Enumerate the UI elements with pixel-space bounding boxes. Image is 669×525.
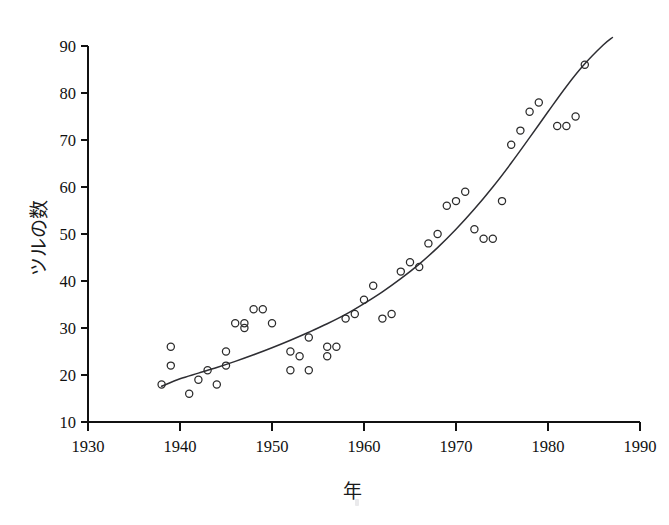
- data-point: [250, 306, 257, 313]
- x-tick-label: 1940: [164, 437, 197, 456]
- data-point: [572, 113, 579, 120]
- data-point: [351, 310, 358, 317]
- data-point: [268, 320, 275, 327]
- data-point: [167, 343, 174, 350]
- data-point: [480, 235, 487, 242]
- y-tick-label: 10: [60, 413, 77, 432]
- data-point: [232, 320, 239, 327]
- y-tick-label: 50: [60, 225, 77, 244]
- y-tick-label: 20: [60, 366, 77, 385]
- data-point: [489, 235, 496, 242]
- y-tick-label: 70: [60, 131, 77, 150]
- y-tick-label: 80: [60, 84, 77, 103]
- scatter-plot: 102030405060708090 193019401950196019701…: [0, 0, 669, 525]
- x-tick-label: 1970: [440, 437, 473, 456]
- data-point: [287, 367, 294, 374]
- data-point: [397, 268, 404, 275]
- data-point: [526, 108, 533, 115]
- x-tick-label: 1930: [72, 437, 105, 456]
- data-point: [287, 348, 294, 355]
- data-point: [333, 343, 340, 350]
- data-point: [167, 362, 174, 369]
- y-tick-label: 90: [60, 37, 77, 56]
- data-point: [222, 348, 229, 355]
- data-point: [296, 353, 303, 360]
- data-point: [360, 296, 367, 303]
- data-point: [342, 315, 349, 322]
- x-axis-title: 年: [343, 480, 362, 502]
- x-tick-label: 1990: [624, 437, 657, 456]
- data-point: [324, 343, 331, 350]
- data-point: [213, 381, 220, 388]
- x-tick-label: 1950: [256, 437, 289, 456]
- y-tick-label: 40: [60, 272, 77, 291]
- data-point: [241, 320, 248, 327]
- x-tick-label: 1960: [348, 437, 381, 456]
- data-point: [324, 353, 331, 360]
- data-point: [370, 282, 377, 289]
- data-points-group: [158, 61, 588, 397]
- data-point: [406, 259, 413, 266]
- data-point: [452, 198, 459, 205]
- fit-curve-group: [162, 38, 613, 387]
- x-tick-label: 1980: [532, 437, 565, 456]
- data-point: [517, 127, 524, 134]
- data-point: [379, 315, 386, 322]
- data-point: [535, 99, 542, 106]
- data-point: [425, 240, 432, 247]
- data-point: [305, 334, 312, 341]
- data-point: [498, 198, 505, 205]
- data-point: [259, 306, 266, 313]
- data-point: [186, 390, 193, 397]
- data-point: [508, 141, 515, 148]
- data-point: [388, 310, 395, 317]
- data-point: [471, 226, 478, 233]
- y-axis-title: ツルの数: [28, 200, 50, 276]
- exponential-fit-curve: [162, 38, 613, 387]
- y-axis-ticks: 102030405060708090: [60, 37, 89, 432]
- data-point: [554, 122, 561, 129]
- data-point: [563, 122, 570, 129]
- y-tick-label: 30: [60, 319, 77, 338]
- data-point: [443, 202, 450, 209]
- data-point: [305, 367, 312, 374]
- data-point: [462, 188, 469, 195]
- chart-container: 102030405060708090 193019401950196019701…: [0, 0, 669, 525]
- x-axis-ticks: 1930194019501960197019801990: [72, 422, 657, 456]
- data-point: [434, 230, 441, 237]
- y-tick-label: 60: [60, 178, 77, 197]
- data-point: [195, 376, 202, 383]
